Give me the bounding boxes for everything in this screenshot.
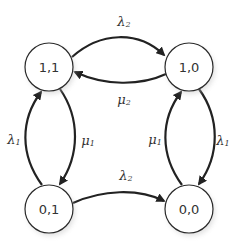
label-mu2: μ2 <box>117 92 131 107</box>
subscript: 2 <box>127 174 133 183</box>
state-diagram: 1,1 1,0 0,1 0,0 λ2 μ2 λ1 μ1 μ1 <box>0 0 238 248</box>
node-1-1: 1,1 <box>25 43 75 94</box>
node-label: 0,0 <box>179 202 200 217</box>
node-label: 1,1 <box>39 60 60 75</box>
edge-01-to-11 <box>25 92 42 185</box>
node-0-0: 0,0 <box>165 185 215 236</box>
edge-11-to-10 <box>72 37 164 57</box>
label-lambda2-top: λ2 <box>116 14 130 29</box>
symbol: λ <box>6 132 15 147</box>
subscript: 1 <box>16 138 21 147</box>
subscript: 2 <box>125 20 131 29</box>
edge-00-to-10 <box>165 92 182 185</box>
label-lambda2-bottom: λ2 <box>118 168 132 183</box>
symbol: λ <box>215 133 224 148</box>
symbol: λ <box>116 14 125 29</box>
label-mu1-right: μ1 <box>148 132 162 147</box>
node-1-0: 1,0 <box>165 43 215 94</box>
symbol: μ <box>148 132 156 147</box>
edge-10-to-00 <box>199 89 215 184</box>
edge-labels: λ2 μ2 λ1 μ1 μ1 λ1 λ2 <box>6 14 229 183</box>
edge-01-to-00 <box>73 192 164 203</box>
subscript: 1 <box>90 139 95 148</box>
subscript: 1 <box>225 139 230 148</box>
symbol: μ <box>117 92 125 107</box>
subscript: 1 <box>157 138 162 147</box>
label-mu1-left: μ1 <box>81 133 95 148</box>
edge-11-to-01 <box>60 89 75 184</box>
subscript: 2 <box>125 98 131 107</box>
label-lambda1-right: λ1 <box>215 133 229 148</box>
label-lambda1-left: λ1 <box>6 132 20 147</box>
node-label: 0,1 <box>39 202 60 217</box>
symbol: λ <box>118 168 127 183</box>
node-label: 1,0 <box>179 60 200 75</box>
node-0-1: 0,1 <box>25 185 75 236</box>
edge-10-to-11 <box>75 72 166 83</box>
symbol: μ <box>81 133 89 148</box>
